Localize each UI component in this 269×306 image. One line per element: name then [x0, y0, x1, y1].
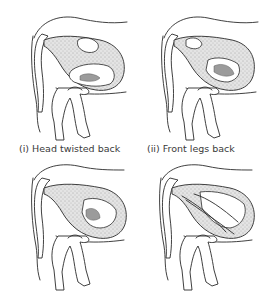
cow-cross-section-illustration [0, 0, 134, 150]
cow-hind-legs [52, 88, 90, 140]
cow-cross-section-illustration [0, 156, 134, 306]
cow-back-outline [34, 17, 127, 38]
diagram-panel-breech [0, 156, 134, 306]
cow-back-outline [162, 165, 252, 180]
cow-back-outline [164, 17, 258, 38]
cow-cross-section-illustration [134, 156, 268, 306]
diagram-panel-front-legs-back [134, 0, 268, 150]
diagram-panel-uterine-torsion [134, 156, 268, 306]
cow-cross-section-illustration [134, 0, 268, 150]
caption-head-twisted-back: (i) Head twisted back [19, 143, 120, 154]
cow-hind-legs [52, 236, 90, 290]
caption-front-legs-back: (ii) Front legs back [147, 143, 235, 154]
cow-hind-legs [182, 88, 220, 140]
cow-back-outline [34, 165, 124, 180]
cow-hind-legs [180, 236, 218, 290]
diagram-panel-head-twisted-back [0, 0, 134, 150]
